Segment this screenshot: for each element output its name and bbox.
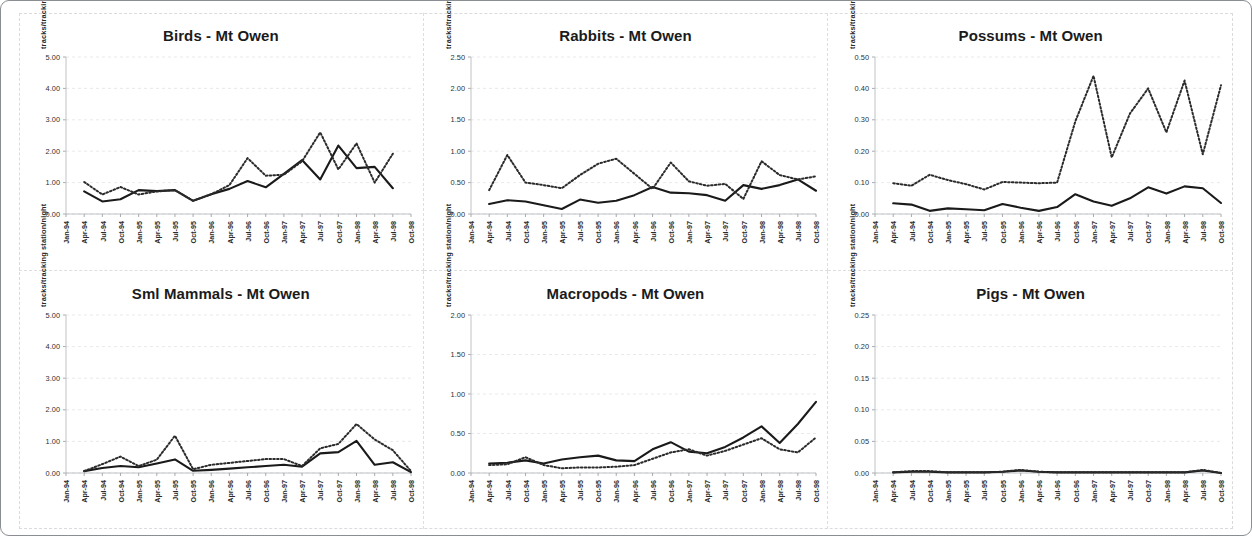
x-tick-label: Jan-95: [539, 221, 548, 244]
y-tick-label: 2.00: [450, 84, 464, 93]
x-tick-label: Jul-95: [576, 221, 585, 242]
x-tick-label: Oct-98: [1218, 480, 1227, 502]
x-tick-label: Jan-95: [135, 221, 144, 244]
x-tick-label: Jul-94: [99, 221, 108, 242]
x-tick-label: Apr-94: [890, 221, 899, 244]
y-axis-title-pigs: tracks/tracking station/night: [848, 157, 860, 307]
plot-area-sml-mammals: tracks/tracking station/night 0.001.002.…: [19, 307, 417, 529]
plot-area-pigs: tracks/tracking station/night 0.000.050.…: [828, 307, 1227, 529]
x-tick-label: Apr-95: [153, 480, 162, 503]
x-tick-label: Apr-98: [1181, 480, 1190, 503]
y-tick-label: 1.50: [450, 115, 464, 124]
series-line-solid: [894, 186, 1222, 210]
x-tick-label: Oct-96: [1072, 480, 1081, 502]
x-tick-label: Oct-97: [1145, 221, 1154, 243]
x-tick-label: Apr-96: [630, 221, 639, 244]
x-tick-label: Oct-96: [667, 480, 676, 502]
x-tick-label: Oct-95: [594, 480, 603, 502]
x-tick-label: Apr-94: [80, 480, 89, 503]
y-tick-label: 0.00: [46, 469, 60, 478]
x-tick-label: Oct-94: [117, 480, 126, 502]
x-tick-label: Jul-97: [316, 221, 325, 242]
y-axis-title-sml-mammals: tracks/tracking station/night: [39, 157, 51, 307]
y-tick-label: 3.00: [46, 115, 60, 124]
y-tick-label: 1.00: [450, 390, 464, 399]
x-tick-label: Jul-98: [389, 221, 398, 242]
x-tick-label: Apr-94: [485, 221, 494, 244]
x-tick-label: Jan-96: [207, 480, 216, 503]
chart-title-rabbits: Rabbits - Mt Owen: [424, 27, 828, 44]
x-tick-label: Apr-98: [776, 480, 785, 503]
x-tick-label: Jan-94: [62, 221, 71, 244]
chart-svg-macropods: 0.000.501.001.502.00Jan-94Apr-94Jul-94Oc…: [424, 307, 822, 529]
x-tick-label: Jul-96: [1054, 221, 1063, 242]
y-tick-label: 0.50: [855, 53, 869, 62]
x-tick-label: Jan-97: [280, 221, 289, 244]
chart-title-possums: Possums - Mt Owen: [828, 27, 1233, 44]
x-tick-label: Apr-95: [963, 221, 972, 244]
x-tick-label: Oct-96: [1072, 221, 1081, 243]
x-tick-label: Oct-95: [189, 480, 198, 502]
y-axis-title-birds: tracks/tracking station/night: [39, 0, 51, 49]
x-tick-label: Apr-96: [630, 480, 639, 503]
x-tick-label: Jul-98: [1199, 480, 1208, 501]
chart-panel-rabbits: Rabbits - Mt Owen tracks/tracking statio…: [424, 13, 829, 271]
x-tick-label: Jul-95: [171, 221, 180, 242]
x-tick-label: Apr-96: [226, 221, 235, 244]
x-tick-label: Jan-97: [685, 221, 694, 244]
y-tick-label: 1.00: [450, 147, 464, 156]
x-tick-label: Jul-97: [1126, 221, 1135, 242]
chart-panel-pigs: Pigs - Mt Owen tracks/tracking station/n…: [828, 271, 1233, 529]
x-tick-label: Oct-98: [812, 480, 821, 502]
x-tick-label: Jan-98: [1163, 221, 1172, 244]
series-line-dotted: [489, 437, 816, 468]
y-axis-title-possums: tracks/tracking station/night: [848, 0, 860, 49]
x-tick-label: Jul-98: [794, 480, 803, 501]
x-tick-label: Jul-94: [908, 480, 917, 501]
y-tick-label: 3.00: [46, 374, 60, 383]
x-tick-label: Oct-95: [999, 480, 1008, 502]
figure-multi-panel-tracking-charts: Birds - Mt Owen tracks/tracking station/…: [0, 0, 1252, 536]
x-tick-label: Jan-94: [467, 480, 476, 503]
chart-title-pigs: Pigs - Mt Owen: [828, 285, 1233, 302]
x-tick-label: Apr-95: [153, 221, 162, 244]
x-tick-label: Jan-98: [353, 480, 362, 503]
chart-svg-rabbits: 0.000.501.001.502.002.50Jan-94Apr-94Jul-…: [424, 49, 822, 270]
x-tick-label: Jan-95: [539, 480, 548, 503]
x-tick-label: Jan-94: [467, 221, 476, 244]
x-tick-label: Jan-95: [944, 480, 953, 503]
x-tick-label: Jan-98: [1163, 480, 1172, 503]
x-tick-label: Jan-97: [1090, 480, 1099, 503]
y-tick-label: 2.00: [46, 405, 60, 414]
x-tick-label: Apr-95: [558, 221, 567, 244]
y-axis-title-macropods: tracks/tracking station/night: [444, 157, 456, 307]
series-line-dotted: [894, 470, 1222, 473]
x-tick-label: Jan-97: [685, 480, 694, 503]
x-tick-label: Jul-96: [1054, 480, 1063, 501]
plot-area-possums: tracks/tracking station/night 0.000.100.…: [828, 49, 1227, 270]
y-tick-label: 5.00: [46, 311, 60, 320]
x-tick-label: Jul-95: [981, 221, 990, 242]
y-tick-label: 2.50: [450, 53, 464, 62]
x-tick-label: Apr-94: [890, 480, 899, 503]
series-line-dotted: [894, 76, 1222, 190]
x-tick-label: Oct-95: [594, 221, 603, 243]
x-tick-label: Jul-96: [648, 480, 657, 501]
x-tick-label: Jul-98: [794, 221, 803, 242]
x-tick-label: Oct-94: [926, 480, 935, 502]
x-tick-label: Jul-98: [389, 480, 398, 501]
x-tick-label: Jan-96: [207, 221, 216, 244]
x-tick-label: Oct-94: [521, 480, 530, 502]
x-tick-label: Oct-97: [1145, 480, 1154, 502]
y-tick-label: 5.00: [46, 53, 60, 62]
x-tick-label: Jan-97: [280, 480, 289, 503]
x-tick-label: Jan-98: [353, 221, 362, 244]
x-tick-label: Jul-96: [244, 221, 253, 242]
x-tick-label: Apr-97: [298, 221, 307, 244]
x-tick-label: Apr-96: [1035, 221, 1044, 244]
chart-svg-possums: 0.000.100.200.300.400.50Jan-94Apr-94Jul-…: [828, 49, 1227, 270]
x-tick-label: Oct-97: [739, 221, 748, 243]
chart-panel-possums: Possums - Mt Owen tracks/tracking statio…: [828, 13, 1233, 271]
x-tick-label: Apr-98: [776, 221, 785, 244]
x-tick-label: Oct-96: [262, 221, 271, 243]
